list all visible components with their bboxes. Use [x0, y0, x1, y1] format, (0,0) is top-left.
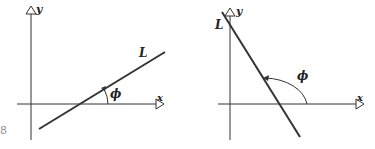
left-y-label: y: [35, 3, 44, 16]
right-line-label: L: [214, 18, 223, 32]
right-y-label: y: [235, 5, 244, 18]
left-y-arrow-icon: [26, 6, 36, 14]
right-x-label: x: [356, 92, 364, 103]
diagram-canvas: y x L ϕ 8 y x L ϕ: [0, 0, 375, 149]
left-x-label: x: [156, 92, 164, 103]
left-figure: [17, 6, 165, 140]
edge-fragment: 8: [0, 124, 7, 137]
right-line-l: [222, 12, 300, 137]
left-line-label: L: [138, 46, 147, 60]
left-angle-label: ϕ: [110, 87, 122, 101]
right-angle-label: ϕ: [297, 69, 309, 83]
right-figure: [218, 8, 364, 140]
left-angle-arc: [104, 89, 108, 104]
left-line-l: [39, 52, 165, 129]
right-y-arrow-icon: [225, 8, 235, 16]
